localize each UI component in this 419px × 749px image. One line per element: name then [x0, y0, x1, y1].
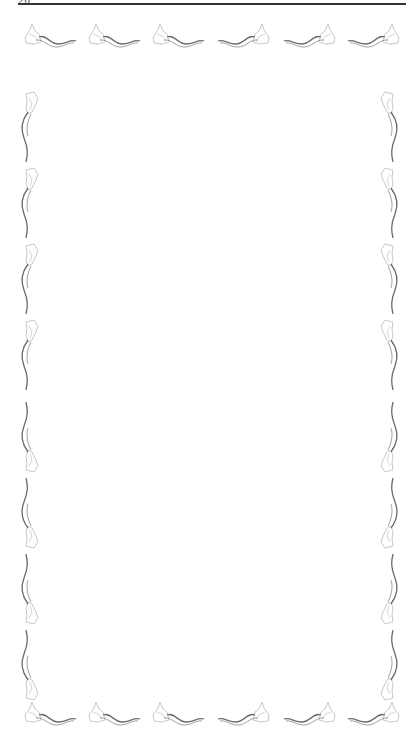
- vine-ornament-icon: [18, 320, 42, 392]
- vine-ornament-icon: [377, 476, 401, 548]
- vine-ornament-icon: [216, 22, 272, 54]
- vine-ornament-icon: [18, 168, 42, 240]
- vine-ornament-icon: [282, 22, 338, 54]
- vine-ornament-icon: [377, 320, 401, 392]
- vine-ornament-icon: [18, 476, 42, 548]
- vine-ornament-icon: [18, 628, 42, 700]
- vine-ornament-icon: [377, 244, 401, 316]
- vine-ornament-icon: [86, 700, 142, 732]
- vine-ornament-icon: [18, 400, 42, 472]
- vine-ornament-icon: [150, 700, 206, 732]
- vine-ornament-icon: [346, 22, 402, 54]
- vine-ornament-icon: [22, 22, 78, 54]
- vine-ornament-icon: [377, 168, 401, 240]
- vine-ornament-icon: [150, 22, 206, 54]
- vine-ornament-icon: [18, 244, 42, 316]
- vine-ornament-icon: [216, 700, 272, 732]
- vine-ornament-icon: [18, 92, 42, 164]
- vine-ornament-icon: [18, 552, 42, 624]
- vine-ornament-icon: [86, 22, 142, 54]
- vine-ornament-icon: [377, 400, 401, 472]
- vine-ornament-icon: [22, 700, 78, 732]
- vine-ornament-icon: [282, 700, 338, 732]
- vine-ornament-icon: [346, 700, 402, 732]
- vine-ornament-icon: [377, 628, 401, 700]
- vine-ornament-icon: [377, 92, 401, 164]
- vine-ornament-icon: [377, 552, 401, 624]
- header-rule: [18, 3, 406, 5]
